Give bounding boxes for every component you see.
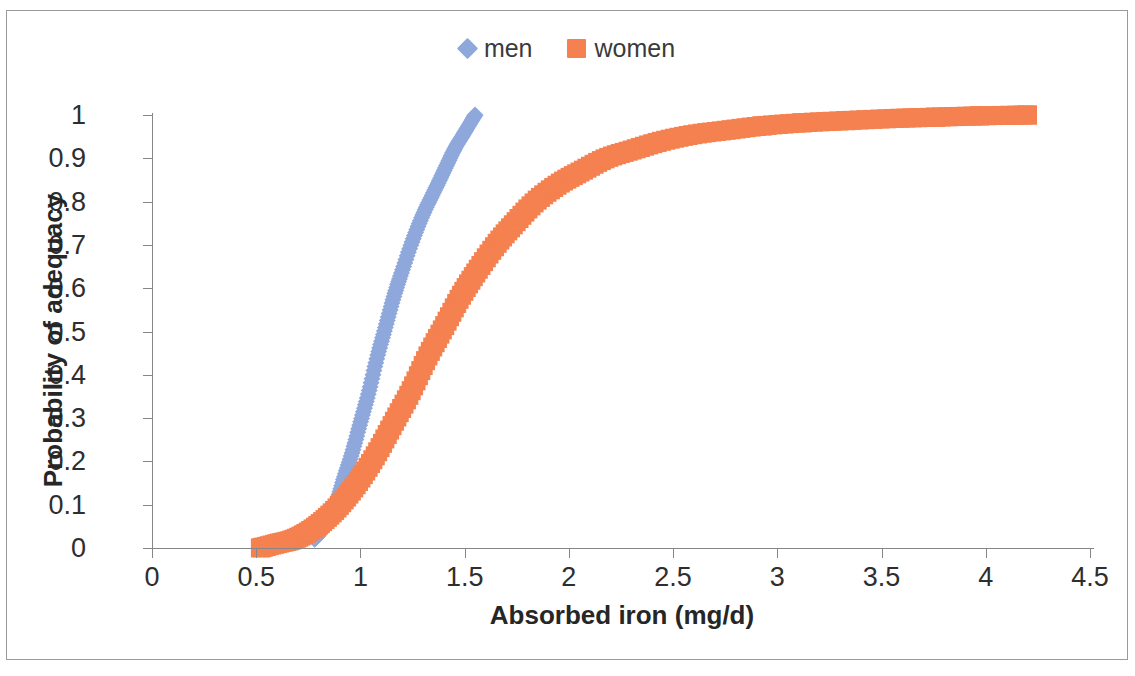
y-axis-tick-label: 1 — [71, 100, 86, 131]
y-axis-title: Probability of adequacy — [38, 131, 69, 551]
x-axis-tick-label: 1 — [353, 562, 368, 593]
chart-figure: men women 00.511.522.533.544.5 00.10.20.… — [0, 0, 1135, 676]
women-square-marker-icon — [567, 39, 586, 58]
x-axis-tick — [882, 549, 883, 558]
x-axis-tick-label: 0.5 — [237, 562, 275, 593]
x-axis-tick — [256, 549, 257, 558]
y-axis-tick — [143, 505, 152, 506]
x-axis-tick-label: 2 — [561, 562, 576, 593]
x-axis-tick-label: 4.5 — [1071, 562, 1109, 593]
y-axis-tick — [143, 288, 152, 289]
legend-item-men: men — [460, 36, 533, 61]
x-axis-tick — [360, 549, 361, 558]
legend-label-men: men — [484, 36, 533, 61]
x-axis-title: Absorbed iron (mg/d) — [152, 600, 1092, 631]
x-axis-tick-label: 3 — [770, 562, 785, 593]
x-axis-tick — [1090, 549, 1091, 558]
y-axis-tick — [143, 548, 152, 549]
series-men — [306, 107, 484, 548]
x-axis-tick-label: 1.5 — [446, 562, 484, 593]
x-axis-tick — [569, 549, 570, 558]
x-axis-tick — [777, 549, 778, 558]
x-axis-tick-label: 2.5 — [654, 562, 692, 593]
x-axis-line — [152, 548, 1094, 549]
y-axis-tick-label: 0 — [71, 533, 86, 564]
series-women — [251, 106, 1037, 558]
plot-area — [152, 115, 1090, 548]
chart-legend: men women — [0, 36, 1135, 61]
y-axis-line — [152, 113, 153, 549]
y-axis-tick — [143, 332, 152, 333]
legend-item-women: women — [567, 36, 676, 61]
legend-label-women: women — [595, 36, 676, 61]
men-diamond-marker-icon — [457, 38, 478, 59]
y-axis-tick — [143, 202, 152, 203]
x-axis-tick — [465, 549, 466, 558]
y-axis-tick — [143, 245, 152, 246]
series-canvas — [152, 115, 1090, 548]
x-axis-tick — [986, 549, 987, 558]
y-axis-tick — [143, 158, 152, 159]
x-axis-tick-label: 0 — [144, 562, 159, 593]
y-axis-tick — [143, 115, 152, 116]
x-axis-tick-label: 4 — [978, 562, 993, 593]
x-axis-tick — [673, 549, 674, 558]
y-axis-tick — [143, 461, 152, 462]
x-axis-tick — [152, 549, 153, 558]
x-axis-tick-label: 3.5 — [863, 562, 901, 593]
y-axis-tick — [143, 418, 152, 419]
y-axis-tick — [143, 375, 152, 376]
